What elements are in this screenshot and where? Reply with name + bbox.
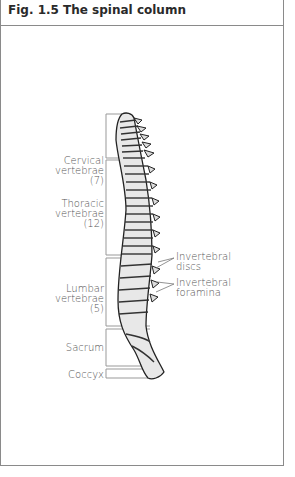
label-cervical-count: (7) xyxy=(40,176,104,186)
label-discs: Invertebral discs xyxy=(176,252,231,272)
label-lumbar-count: (5) xyxy=(40,304,104,314)
label-thoracic: Thoracic vertebrae (12) xyxy=(40,199,104,229)
label-foramina: Invertebral foramina xyxy=(176,278,231,298)
label-discs-line2: discs xyxy=(176,262,231,272)
label-foramina-line2: foramina xyxy=(176,288,231,298)
label-coccyx: Coccyx xyxy=(40,370,104,380)
spinal-column-illustration xyxy=(0,0,295,477)
leader-lines xyxy=(156,258,174,292)
label-cervical: Cervical vertebrae (7) xyxy=(40,156,104,186)
label-lumbar: Lumbar vertebrae (5) xyxy=(40,284,104,314)
label-thoracic-count: (12) xyxy=(40,219,104,229)
label-sacrum: Sacrum xyxy=(40,343,104,353)
